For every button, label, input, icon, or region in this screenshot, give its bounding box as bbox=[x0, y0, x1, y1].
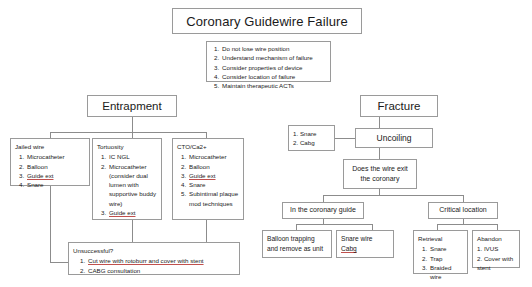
list-item: Snare bbox=[26, 180, 85, 189]
list-item: IC NGL bbox=[108, 152, 157, 161]
list-item: Consider properties of device bbox=[221, 63, 327, 72]
balloon-trapping-list: Balloon trapping and remove as unit bbox=[267, 234, 327, 254]
list-item: Consider location of failure bbox=[221, 72, 327, 81]
balloon-trapping-box: Balloon trapping and remove as unit bbox=[262, 230, 332, 258]
flowchart-canvas: Coronary Guidewire Failure Do not lose w… bbox=[0, 0, 532, 287]
list-item: Cabg bbox=[341, 244, 389, 254]
list-item: 1. IVUS bbox=[477, 244, 515, 253]
list-item: Microcatheter bbox=[26, 152, 85, 161]
list-item: Guide ext bbox=[188, 171, 239, 180]
list-item: Understand mechanism of failure bbox=[221, 53, 327, 62]
list-item: Maintain therapeutic ACTs bbox=[221, 81, 327, 90]
unsuccessful-list: Cut wire with rotoburr and cover with st… bbox=[73, 256, 235, 275]
in-coronary-guide-label: In the coronary guide bbox=[290, 205, 356, 215]
connector-entrapment-down bbox=[132, 117, 133, 132]
list-item: Snare wire bbox=[341, 234, 389, 244]
list-item: Microcatheter (consider dual lumen with … bbox=[108, 162, 157, 208]
connector-uncoiling-question bbox=[379, 148, 380, 159]
in-coronary-guide-box: In the coronary guide bbox=[282, 202, 364, 219]
connector-options-to-uncoiling bbox=[335, 138, 355, 139]
snare-wire-list: Snare wire Cabg bbox=[341, 234, 389, 254]
tortuosity-box: Tortuosity IC NGL Microcatheter (conside… bbox=[92, 138, 162, 220]
uncoiling-options-list: 1. Snare 2. Cabg bbox=[293, 129, 330, 148]
principles-box: Do not lose wire position Understand mec… bbox=[206, 41, 331, 82]
entrapment-label: Entrapment bbox=[102, 100, 161, 112]
principles-list: Do not lose wire position Understand mec… bbox=[210, 44, 327, 90]
connector-entrapment-bus bbox=[50, 132, 206, 133]
list-item: Trap bbox=[429, 254, 463, 263]
uncoiling-label: Uncoiling bbox=[377, 132, 412, 144]
retrieval-box: Retrieval Snare Trap Braided wire bbox=[413, 230, 468, 274]
list-item: Subintimal plaque mod techniques bbox=[188, 189, 239, 208]
connector-jailed-down bbox=[50, 186, 51, 262]
cto-box: CTO/Ca2+ Microcatheter Balloon Guide ext… bbox=[172, 138, 244, 220]
uncoiling-box: Uncoiling bbox=[355, 128, 433, 148]
question-box: Does the wire exit the coronary bbox=[343, 159, 417, 189]
question-label: Does the wire exit the coronary bbox=[347, 164, 413, 184]
list-item: Cut wire with rotoburr and cover with st… bbox=[87, 256, 235, 265]
abandon-label: Abandon bbox=[477, 234, 515, 243]
list-item: Snare bbox=[188, 180, 239, 189]
cto-label: CTO/Ca2+ bbox=[177, 142, 239, 151]
connector-critical-bus bbox=[437, 224, 497, 225]
connector-to-in-guide bbox=[323, 195, 324, 202]
connector-cto-down bbox=[206, 220, 207, 242]
list-item: 1. Snare bbox=[293, 129, 330, 138]
connector-to-critical bbox=[463, 195, 464, 202]
list-item: Microcatheter bbox=[188, 152, 239, 161]
list-item: Balloon bbox=[188, 162, 239, 171]
connector-inguide-bus bbox=[296, 224, 372, 225]
retrieval-label: Retrieval bbox=[418, 234, 463, 243]
list-item: 2. Cover with stent bbox=[477, 254, 515, 273]
jailed-wire-box: Jailed wire Microcatheter Balloon Guide … bbox=[10, 138, 90, 186]
connector-jailed-to-unsuccessful bbox=[50, 262, 68, 263]
list-item: 2. Cabg bbox=[293, 138, 330, 147]
cto-list: Microcatheter Balloon Guide ext Snare Su… bbox=[177, 152, 239, 208]
critical-location-label: Critical location bbox=[439, 205, 486, 215]
tortuosity-list: IC NGL Microcatheter (consider dual lume… bbox=[97, 152, 157, 217]
tortuosity-label: Tortuosity bbox=[97, 142, 157, 151]
connector-fracture-uncoiling bbox=[379, 117, 380, 128]
list-item: Balloon bbox=[26, 162, 85, 171]
jailed-wire-list: Microcatheter Balloon Guide ext Snare bbox=[15, 152, 85, 189]
list-item: and remove as unit bbox=[267, 244, 327, 254]
list-item: Snare bbox=[429, 244, 463, 253]
page-title: Coronary Guidewire Failure bbox=[186, 14, 348, 29]
list-item: Guide ext bbox=[108, 208, 157, 217]
list-item: Balloon trapping bbox=[267, 234, 327, 244]
retrieval-list: Snare Trap Braided wire bbox=[418, 244, 463, 281]
fracture-box: Fracture bbox=[360, 95, 438, 117]
critical-location-box: Critical location bbox=[428, 202, 498, 219]
abandon-box: Abandon 1. IVUS 2. Cover with stent bbox=[472, 230, 520, 268]
entrapment-box: Entrapment bbox=[87, 95, 177, 117]
fracture-label: Fracture bbox=[378, 100, 421, 112]
list-item: Do not lose wire position bbox=[221, 44, 327, 53]
jailed-wire-label: Jailed wire bbox=[15, 142, 85, 151]
abandon-list: 1. IVUS 2. Cover with stent bbox=[477, 244, 515, 272]
list-item: Guide ext bbox=[26, 171, 85, 180]
list-item: CABG consultation bbox=[87, 266, 235, 275]
list-item: Braided wire bbox=[429, 263, 463, 282]
unsuccessful-box: Unsuccessful? Cut wire with rotoburr and… bbox=[68, 242, 240, 275]
diagram-title-box: Coronary Guidewire Failure bbox=[172, 8, 362, 34]
connector-tortuosity-down bbox=[132, 220, 133, 242]
snare-wire-box: Snare wire Cabg bbox=[336, 230, 394, 258]
unsuccessful-label: Unsuccessful? bbox=[73, 246, 235, 255]
connector-question-bus bbox=[323, 195, 463, 196]
uncoiling-options-box: 1. Snare 2. Cabg bbox=[288, 125, 335, 151]
